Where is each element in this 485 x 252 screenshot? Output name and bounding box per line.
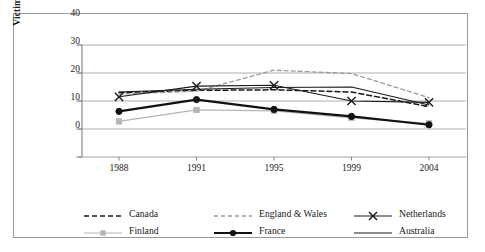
legend-key-icon	[352, 225, 394, 237]
legend-item-canada[interactable]: Canada	[82, 205, 212, 222]
marker-france	[116, 108, 122, 114]
legend-marker	[230, 229, 236, 235]
marker-finland	[116, 119, 121, 124]
legend-key-icon	[212, 208, 254, 220]
legend-item-france[interactable]: France	[212, 222, 352, 239]
legend-marker	[100, 230, 105, 235]
legend-label: Canada	[124, 208, 158, 219]
legend-item-netherlands[interactable]: Netherlands	[352, 205, 462, 222]
marker-france	[426, 122, 432, 128]
chart-legend: CanadaEngland & WalesNetherlandsFinlandF…	[82, 205, 464, 239]
legend-row: FinlandFranceAustralia	[82, 222, 464, 239]
y-axis-tick-labels: 010203040	[54, 14, 80, 157]
legend-label: Australia	[394, 225, 435, 236]
series-line-england-wales	[119, 70, 429, 97]
legend-label: Netherlands	[394, 208, 446, 219]
legend-label: Finland	[124, 225, 159, 236]
marker-france	[348, 113, 354, 119]
legend-label: France	[254, 225, 285, 236]
plot-area	[82, 45, 466, 157]
y-tick-label: 40	[58, 9, 80, 19]
legend-item-england-wales[interactable]: England & Wales	[212, 205, 352, 222]
x-tick-label: 1999	[342, 163, 361, 173]
legend-item-finland[interactable]: Finland	[82, 222, 212, 239]
series-plot	[82, 45, 466, 157]
legend-key-icon	[212, 225, 254, 237]
legend-label: England & Wales	[254, 208, 327, 219]
x-tick-label: 1988	[110, 163, 129, 173]
legend-key-icon	[82, 208, 124, 220]
legend-key-icon	[352, 208, 394, 220]
legend-item-australia[interactable]: Australia	[352, 222, 462, 239]
legend-key-icon	[82, 225, 124, 237]
chart-figure: Victimizations per 100 persons 010203040…	[0, 0, 485, 252]
marker-finland	[194, 107, 199, 112]
x-axis-tick-labels: 19881991199519992004	[82, 160, 466, 176]
legend-row: CanadaEngland & WalesNetherlands	[82, 205, 464, 222]
x-tick-label: 2004	[420, 163, 439, 173]
x-tick-label: 1991	[187, 163, 206, 173]
marker-france	[271, 106, 277, 112]
y-axis-title: Victimizations per 100 persons	[12, 0, 22, 32]
x-tick-label: 1995	[265, 163, 284, 173]
marker-france	[193, 97, 199, 103]
chart-frame: Victimizations per 100 persons 010203040…	[13, 13, 468, 238]
